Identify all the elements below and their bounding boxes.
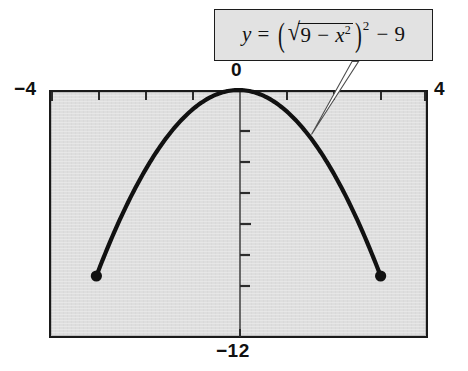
equation-equals: = — [258, 24, 270, 45]
radical-sign-icon: √ — [287, 22, 299, 42]
curve-path — [96, 90, 380, 276]
equation-tail-minus: − — [376, 24, 388, 45]
y-axis-max-label: 0 — [231, 59, 242, 81]
x-axis-min-label: −4 — [14, 78, 37, 100]
curve-endpoint-right — [375, 270, 386, 281]
paren-close-glyph: ) — [355, 21, 362, 49]
x-axis-ticks-top — [52, 92, 425, 101]
equation-lhs: y — [242, 24, 251, 45]
graph-figure: −4 4 0 −12 y = ( √ 9−x2 ) 2 − 9 — [0, 0, 468, 371]
x-axis-max-label: 4 — [434, 78, 445, 100]
callout-leader-line — [312, 62, 359, 135]
radicand-constant: 9 — [300, 23, 311, 47]
paren-open-glyph: ( — [278, 21, 285, 49]
paren-exponent: 2 — [363, 19, 370, 32]
curve-endpoint-left — [91, 270, 102, 281]
equation-tail-value: 9 — [395, 24, 406, 45]
radicand-exponent: 2 — [345, 23, 351, 37]
radicand: 9−x2 — [298, 23, 352, 46]
y-axis-ticks — [240, 131, 251, 286]
equation-text: y = ( √ 9−x2 ) 2 − 9 — [242, 21, 405, 49]
radicand-minus: − — [317, 23, 329, 47]
radical-group: √ 9−x2 — [287, 23, 353, 46]
equation-callout-box: y = ( √ 9−x2 ) 2 − 9 — [214, 9, 433, 61]
y-axis-min-label: −12 — [216, 340, 250, 362]
radicand-variable: x — [335, 23, 344, 47]
